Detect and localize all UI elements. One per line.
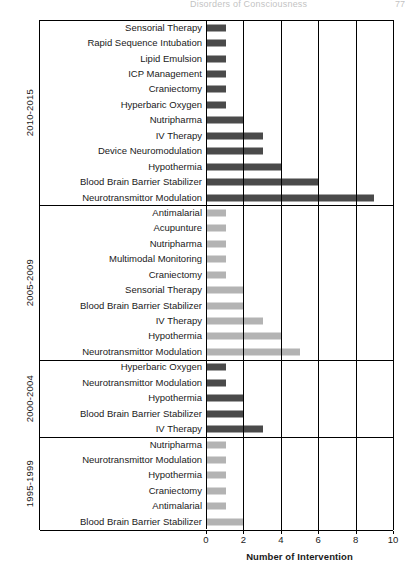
bar [207,40,226,47]
bar [207,240,226,247]
chart-row: Blood Brain Barrier Stabilizer [40,298,393,313]
bar-track [206,51,393,66]
bar [207,318,263,325]
chart-row: Sensorial Therapy [40,20,393,35]
chart-row: Nutripharma [40,236,393,251]
category-label: IV Therapy [40,424,206,434]
category-label: Neurotransmittor Modulation [40,347,206,357]
bar [207,503,226,510]
category-label: Neurotransmittor Modulation [40,193,206,203]
category-label: Blood Brain Barrier Stabilizer [40,409,206,419]
chart-row: Craniectomy [40,82,393,97]
bar-track [206,236,393,251]
bar [207,24,226,31]
bar-track [206,298,393,313]
bar [207,518,244,525]
chart-row: Device Neuromodulation [40,144,393,159]
bar-track [206,313,393,328]
x-tick-label: 8 [353,531,358,545]
chart-row: Lipid Emulsion [40,51,393,66]
bar-track [206,159,393,174]
bar [207,71,226,78]
bar [207,117,244,124]
bar-track [206,174,393,189]
category-label: ICP Management [40,69,206,79]
x-tick-label: 6 [316,531,321,545]
bar [207,179,319,186]
bar-track [206,329,393,344]
chart-row: Neurotransmittor Modulation [40,190,393,205]
chart-row: Hypothermia [40,391,393,406]
category-label: Craniectomy [40,270,206,280]
bar-track [206,252,393,267]
chart-row: IV Therapy [40,128,393,143]
category-label: Neurotransmittor Modulation [40,378,206,388]
chart-row: Neurotransmittor Modulation [40,452,393,467]
group-axis: 2010-20152005-20092000-20041995-1999 [20,20,40,530]
chart-row: Blood Brain Barrier Stabilizer [40,514,393,529]
bar-track [206,483,393,498]
chart-row: Hyperbaric Oxygen [40,360,393,375]
chart-row: Antimalarial [40,205,393,220]
category-label: Acupunture [40,223,206,233]
category-label: Hypothermia [40,393,206,403]
bar-track [206,468,393,483]
bar-track [206,514,393,529]
bar-track [206,499,393,514]
category-label: Hypothermia [40,162,206,172]
bar-track [206,190,393,205]
bar [207,487,226,494]
chart-row: Neurotransmittor Modulation [40,344,393,359]
category-label: Hypothermia [40,470,206,480]
category-label: Lipid Emulsion [40,54,206,64]
intervention-bar-chart: 2010-20152005-20092000-20041995-1999 Sen… [0,14,413,554]
bar-track [206,205,393,220]
x-tick-label: 10 [388,531,399,545]
category-label: Sensorial Therapy [40,285,206,295]
bar-track [206,282,393,297]
gridline-10 [393,20,394,530]
category-label: Craniectomy [40,84,206,94]
running-header: Disorders of Consciousness 77 [0,0,413,10]
chart-row: Nutripharma [40,113,393,128]
chart-row: Hypothermia [40,159,393,174]
chart-row: ICP Management [40,66,393,81]
x-tick-label: 4 [278,531,283,545]
group-band-2010-2015: 2010-2015 [20,20,40,205]
bar [207,256,226,263]
category-label: Hyperbaric Oxygen [40,362,206,372]
bar [207,209,226,216]
x-tick-label: 2 [241,531,246,545]
category-label: Blood Brain Barrier Stabilizer [40,301,206,311]
group-band-2000-2004: 2000-2004 [20,360,40,437]
chart-row: Hypothermia [40,329,393,344]
group-band-label: 2000-2004 [24,375,35,422]
group-band-2005-2009: 2005-2009 [20,205,40,360]
bar-track [206,452,393,467]
bar-track [206,421,393,436]
bar [207,410,244,417]
chart-row: Blood Brain Barrier Stabilizer [40,406,393,421]
category-label: Device Neuromodulation [40,146,206,156]
bar [207,271,226,278]
running-header-page-number: 77 [395,0,405,9]
bar-track [206,360,393,375]
page-canvas: Disorders of Consciousness 77 2010-20152… [0,0,413,569]
category-label: Rapid Sequence Intubation [40,38,206,48]
chart-row: Craniectomy [40,483,393,498]
bar [207,379,226,386]
chart-row: Antimalarial [40,499,393,514]
bar [207,148,263,155]
bar [207,55,226,62]
category-label: IV Therapy [40,131,206,141]
bar-track [206,391,393,406]
x-tick-label: 0 [203,531,208,545]
bar-track [206,66,393,81]
bar-track [206,406,393,421]
chart-row: Multimodal Monitoring [40,252,393,267]
bar-track [206,20,393,35]
bar [207,101,226,108]
bar [207,395,244,402]
bar [207,225,226,232]
category-label: Sensorial Therapy [40,23,206,33]
